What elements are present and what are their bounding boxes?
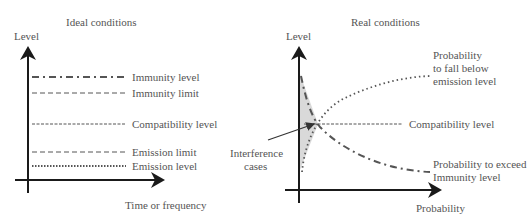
- right-x-axis-label: Probability: [416, 202, 465, 215]
- right-y-axis-label: Level: [286, 30, 311, 43]
- compatibility-level-label: Compatibility level: [132, 118, 217, 131]
- right-panel-title: Real conditions: [351, 16, 420, 29]
- compatibility-level-label-real: Compatibility level: [409, 118, 494, 131]
- left-panel-title: Ideal conditions: [66, 16, 137, 29]
- immunity-level-label: Immunity level: [132, 71, 200, 84]
- emission-curve-label-line3: emission level: [433, 75, 496, 88]
- emission-level-label: Emission level: [132, 160, 197, 173]
- immunity-limit-label: Immunity limit: [132, 87, 199, 100]
- interference-label-line2: cases: [244, 160, 267, 173]
- emission-curve-label-line2: to fall below: [433, 62, 489, 75]
- diagram-canvas: [0, 0, 532, 223]
- left-y-axis-label: Level: [14, 30, 39, 43]
- interference-label-line1: Interference: [230, 147, 283, 160]
- emission-limit-label: Emission limit: [132, 146, 196, 159]
- left-x-axis-label: Time or frequency: [125, 199, 206, 212]
- immunity-curve-label-line1: Probability to exceed: [433, 158, 526, 171]
- emission-curve-label-line1: Probability: [433, 49, 482, 62]
- immunity-curve-label-line2: Immunity level: [433, 171, 501, 184]
- interference-area: [300, 74, 318, 170]
